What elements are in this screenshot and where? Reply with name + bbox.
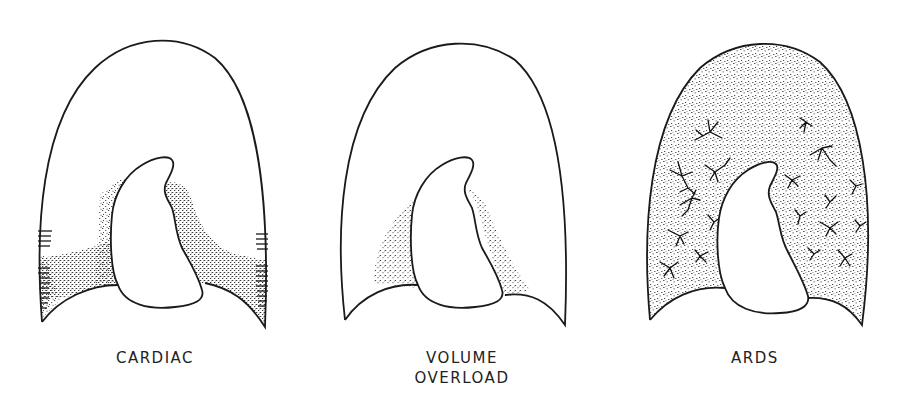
panel-ards: ARDS (600, 0, 913, 415)
caption-line: VOLUME (392, 348, 532, 368)
panel-volume-overload: VOLUME OVERLOAD (300, 0, 605, 415)
caption-volume-overload: VOLUME OVERLOAD (392, 348, 532, 388)
panel-cardiac: CARDIAC (0, 0, 305, 415)
caption-line: CARDIAC (95, 348, 215, 368)
caption-line: ARDS (705, 348, 805, 368)
caption-cardiac: CARDIAC (95, 348, 215, 368)
caption-ards: ARDS (705, 348, 805, 368)
caption-line: OVERLOAD (392, 368, 532, 388)
